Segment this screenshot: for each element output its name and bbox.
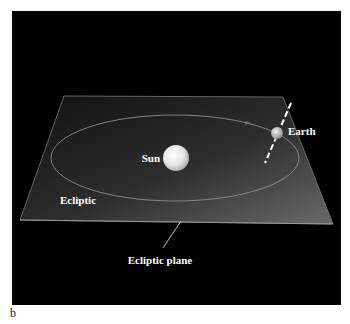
panel-letter: b	[10, 306, 16, 321]
ecliptic-diagram: Sun Earth Ecliptic Ecliptic plane	[0, 0, 350, 324]
sun-label: Sun	[142, 152, 160, 164]
earth-icon	[271, 127, 283, 139]
sun-icon	[163, 145, 189, 171]
ecliptic-plane-label: Ecliptic plane	[128, 254, 193, 266]
ecliptic-label: Ecliptic	[60, 194, 96, 206]
earth-label: Earth	[288, 125, 316, 137]
